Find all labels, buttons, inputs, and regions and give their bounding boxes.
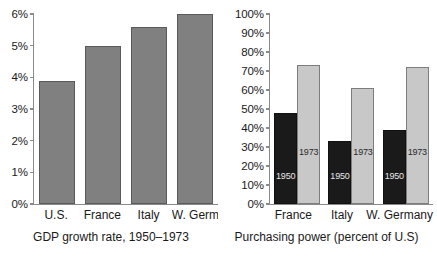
purchasing-power-bar-1950: 1950 — [328, 141, 351, 204]
purchasing-power-y-tick-label: 0% — [248, 198, 264, 210]
gdp-growth-bar — [131, 27, 167, 204]
purchasing-power-y-tick-label: 90% — [241, 27, 264, 39]
purchasing-power-y-tick-label: 50% — [241, 103, 264, 115]
purchasing-power-category-label: Italy — [318, 208, 367, 222]
gdp-growth-bar-group — [34, 14, 80, 204]
purchasing-power-y-tick-label: 70% — [241, 65, 264, 77]
gdp-growth-plot-area: 6%5%4%3%2%1%0% — [33, 14, 218, 205]
gdp-growth-caption: GDP growth rate, 1950–1973 — [0, 230, 222, 244]
gdp-growth-x-axis: U.S.FranceItalyW. Germany — [33, 208, 218, 222]
gdp-growth-category-label: Italy — [126, 208, 172, 222]
gdp-growth-category-label: France — [79, 208, 125, 222]
gdp-growth-category-label: W. Germany — [172, 208, 218, 222]
purchasing-power-category-label: France — [269, 208, 318, 222]
gdp-growth-bar — [85, 46, 121, 204]
purchasing-power-bar-year-label: 1973 — [353, 147, 372, 157]
purchasing-power-bars: 195019731950197319501973 — [270, 14, 433, 204]
purchasing-power-category-label: W. Germany — [366, 208, 433, 222]
purchasing-power-bar-year-label: 1950 — [330, 171, 349, 181]
gdp-growth-y-tick-label: 4% — [12, 71, 28, 83]
gdp-growth-y-tick-label: 6% — [12, 8, 28, 20]
gdp-growth-bar-group — [172, 14, 218, 204]
purchasing-power-y-tick-label: 30% — [241, 141, 264, 153]
purchasing-power-y-tick-label: 40% — [241, 122, 264, 134]
purchasing-power-bar-group: 19501973 — [324, 14, 378, 204]
purchasing-power-bar-year-label: 1973 — [299, 147, 318, 157]
gdp-growth-panel: 6%5%4%3%2%1%0% U.S.FranceItalyW. Germany… — [0, 0, 222, 258]
purchasing-power-caption: Purchasing power (percent of U.S) — [216, 230, 437, 244]
gdp-growth-y-tick-label: 2% — [12, 135, 28, 147]
purchasing-power-plot-area: 100%90%80%70%60%50%40%30%20%10%0% 195019… — [269, 14, 433, 205]
purchasing-power-bar-year-label: 1973 — [408, 147, 427, 157]
gdp-growth-bar-group — [80, 14, 126, 204]
two-panel-bar-figure: 6%5%4%3%2%1%0% U.S.FranceItalyW. Germany… — [0, 0, 437, 258]
purchasing-power-panel: 100%90%80%70%60%50%40%30%20%10%0% 195019… — [222, 0, 437, 258]
purchasing-power-bar-1973: 1973 — [297, 65, 320, 204]
gdp-growth-y-tick-label: 3% — [12, 103, 28, 115]
purchasing-power-y-tick-label: 60% — [241, 84, 264, 96]
gdp-growth-bars — [34, 14, 218, 204]
purchasing-power-x-axis: FranceItalyW. Germany — [269, 208, 433, 222]
purchasing-power-bar-1950: 1950 — [383, 130, 406, 204]
gdp-growth-category-label: U.S. — [33, 208, 79, 222]
gdp-growth-y-tick-label: 5% — [12, 40, 28, 52]
gdp-growth-bar — [177, 14, 213, 204]
purchasing-power-bar-year-label: 1950 — [276, 171, 295, 181]
purchasing-power-y-tick-label: 20% — [241, 160, 264, 172]
gdp-growth-bar — [39, 81, 75, 205]
purchasing-power-bar-year-label: 1950 — [385, 171, 404, 181]
purchasing-power-bar-1973: 1973 — [351, 88, 374, 204]
purchasing-power-bar-1973: 1973 — [406, 67, 429, 204]
purchasing-power-bar-group: 19501973 — [270, 14, 324, 204]
purchasing-power-y-tick-label: 100% — [235, 8, 264, 20]
gdp-growth-y-tick-label: 1% — [12, 166, 28, 178]
purchasing-power-y-tick-label: 80% — [241, 46, 264, 58]
gdp-growth-y-tick-label: 0% — [12, 198, 28, 210]
purchasing-power-bar-group: 19501973 — [379, 14, 433, 204]
purchasing-power-y-tick-label: 10% — [241, 179, 264, 191]
purchasing-power-bar-1950: 1950 — [274, 113, 297, 204]
gdp-growth-bar-group — [126, 14, 172, 204]
